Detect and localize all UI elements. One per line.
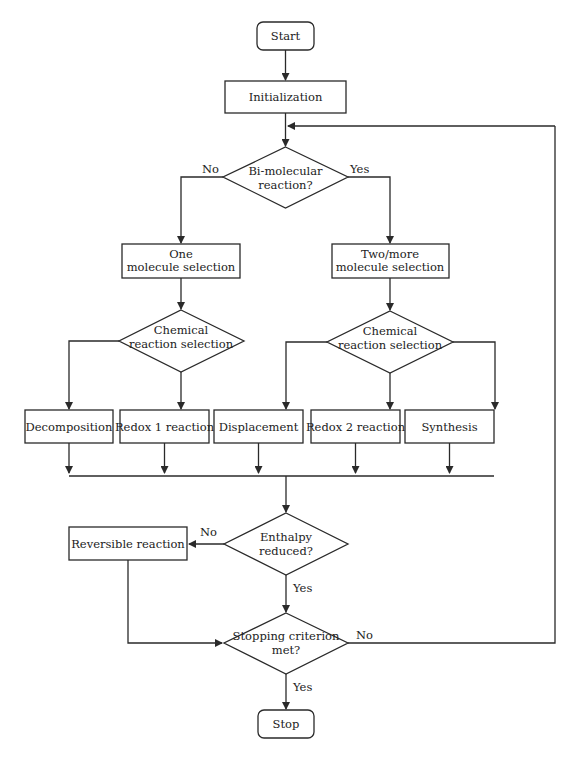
flowchart: Start Initialization Bi-molecular reacti… [0, 0, 577, 759]
one-molecule-line2: molecule selection [127, 260, 236, 274]
stop-label: Stop [273, 717, 300, 731]
decomposition-label: Decomposition [26, 420, 113, 434]
edge-chem2-displacement [286, 342, 327, 409]
init-label: Initialization [249, 90, 323, 104]
stopping-line1: Stopping criterion [233, 629, 340, 643]
one-molecule-node: One molecule selection [122, 244, 240, 278]
chem-selection-2-decision: Chemical reaction selection [327, 311, 453, 373]
stopping-yes-label: Yes [292, 680, 312, 694]
displacement-node: Displacement [214, 410, 303, 443]
chem-selection-1-decision: Chemical reaction selection [119, 310, 244, 372]
bimolecular-line2: reaction? [258, 178, 312, 192]
start-label: Start [271, 29, 301, 43]
redox1-node: Redox 1 reaction [115, 410, 215, 443]
reversible-node: Reversible reaction [69, 527, 187, 560]
init-node: Initialization [225, 81, 346, 113]
stopping-line2: met? [272, 643, 301, 657]
chem1-line2: reaction selection [129, 337, 234, 351]
two-molecule-line1: Two/more [361, 247, 419, 261]
edge-chem2-synthesis [453, 342, 495, 409]
stopping-decision: Stopping criterion met? [224, 613, 348, 674]
chem2-line2: reaction selection [338, 338, 443, 352]
enthalpy-yes-label: Yes [292, 581, 312, 595]
chem2-line1: Chemical [363, 324, 418, 338]
stopping-no-label: No [356, 628, 373, 642]
enthalpy-line2: reduced? [259, 544, 313, 558]
stop-node: Stop [258, 710, 314, 738]
two-molecule-node: Two/more molecule selection [332, 244, 449, 278]
displacement-label: Displacement [219, 420, 299, 434]
edge-reversible-stopping [128, 560, 222, 643]
redox2-label: Redox 2 reaction [306, 420, 406, 434]
redox1-label: Redox 1 reaction [115, 420, 215, 434]
enthalpy-decision: Enthalpy reduced? [224, 513, 348, 575]
reversible-label: Reversible reaction [71, 537, 185, 551]
chem1-line1: Chemical [154, 323, 209, 337]
edge-chem1-decomposition [69, 341, 119, 409]
bimolecular-no-label: No [202, 162, 219, 176]
synthesis-node: Synthesis [405, 410, 494, 443]
bimolecular-decision: Bi-molecular reaction? [223, 147, 348, 208]
two-molecule-line2: molecule selection [336, 260, 445, 274]
edge-bimolecular-yes [348, 177, 390, 243]
enthalpy-no-label: No [200, 525, 217, 539]
one-molecule-line1: One [169, 247, 193, 261]
edge-stopping-loop [348, 126, 555, 643]
decomposition-node: Decomposition [25, 410, 113, 443]
bimolecular-yes-label: Yes [349, 162, 369, 176]
edge-bimolecular-no [181, 177, 223, 243]
redox2-node: Redox 2 reaction [306, 410, 406, 443]
bimolecular-line1: Bi-molecular [248, 164, 323, 178]
enthalpy-line1: Enthalpy [260, 530, 313, 544]
synthesis-label: Synthesis [421, 420, 477, 434]
start-node: Start [257, 22, 314, 50]
